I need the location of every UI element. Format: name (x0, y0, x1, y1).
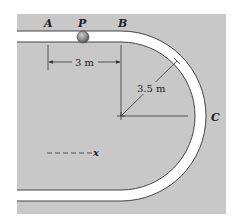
x-axis-label: x (92, 147, 100, 158)
point-label-a: A (43, 17, 53, 30)
particle-ball (77, 31, 89, 43)
track-diagram: A P B C 3 m 3.5 m x (0, 0, 234, 224)
point-label-b: B (117, 17, 127, 30)
dim-label-radius: 3.5 m (137, 83, 166, 94)
dim-label-straight: 3 m (75, 57, 95, 68)
point-label-p: P (77, 17, 87, 30)
point-label-c: C (211, 111, 220, 124)
